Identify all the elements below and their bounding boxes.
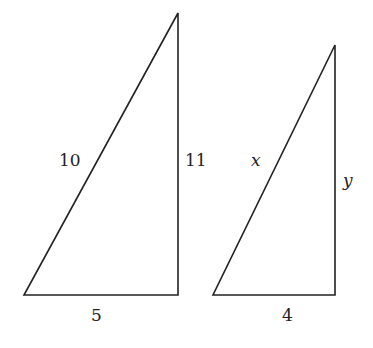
right-hypotenuse-label: x [251,152,261,169]
triangles-svg [0,0,373,348]
right-vertical-leg-label: y [343,172,353,189]
diagram-canvas: 10 11 5 x y 4 [0,0,373,348]
left-hypotenuse-label: 10 [59,152,81,169]
left-vertical-leg-label: 11 [185,152,207,169]
right-triangle [213,45,335,295]
left-base-label: 5 [91,307,102,324]
left-triangle [24,13,178,295]
right-base-label: 4 [282,307,293,324]
